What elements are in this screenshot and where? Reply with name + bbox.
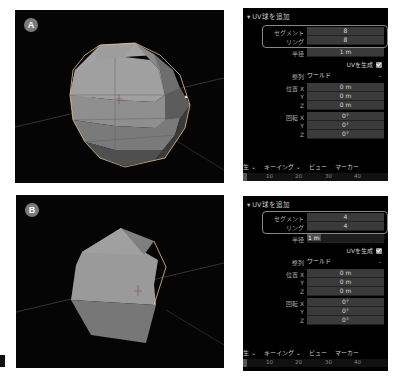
align-select[interactable]: ワールド⌄ bbox=[307, 71, 384, 79]
align-row: 整列 ワールド⌄ bbox=[243, 257, 388, 266]
rotation-x-row: 回転 X 0° bbox=[243, 112, 388, 121]
menu-marker[interactable]: マーカー bbox=[335, 349, 359, 356]
rotation-z-field[interactable]: 0° bbox=[307, 130, 384, 139]
operator-title[interactable]: ▾ UV球を追加 bbox=[247, 11, 290, 21]
location-z-row: Z 0 m bbox=[243, 101, 388, 110]
menu-keying[interactable]: キーイング ⌄ bbox=[264, 163, 301, 170]
rings-label: リング bbox=[286, 37, 304, 46]
location-y-label: Y bbox=[300, 279, 304, 286]
location-z-label: Z bbox=[300, 102, 304, 109]
operator-panel-b: ▾ UV球を追加 セグメント 4 リング 4 半径 1 m UVを生成 整列 ワ… bbox=[243, 196, 388, 371]
align-label: 整列 bbox=[292, 258, 304, 267]
rotation-z-row: Z 0° bbox=[243, 130, 388, 139]
rings-field[interactable]: 8 bbox=[307, 36, 384, 45]
rotation-x-row: 回転 X 0° bbox=[243, 298, 388, 307]
radius-label: 半径 bbox=[292, 235, 304, 244]
viewport-a[interactable]: A bbox=[15, 10, 224, 183]
checkbox-checked-icon bbox=[376, 248, 382, 254]
viewport-b[interactable]: B bbox=[16, 195, 224, 368]
badge-a: A bbox=[24, 18, 38, 32]
rotation-y-field[interactable]: 0° bbox=[307, 121, 384, 130]
operator-panel-a: ▾ UV球を追加 セグメント 8 リング 8 半径 1 m UVを生成 整列 ワ… bbox=[243, 8, 388, 181]
timeline-ruler[interactable]: 10 20 30 40 bbox=[243, 173, 388, 181]
menu-playback[interactable]: 生 ⌄ bbox=[243, 349, 256, 356]
playhead[interactable] bbox=[243, 173, 247, 181]
rotation-x-field[interactable]: 0° bbox=[307, 298, 384, 307]
timeline-ruler[interactable]: 10 20 30 40 bbox=[243, 359, 388, 367]
playhead[interactable] bbox=[243, 359, 247, 367]
rotation-y-row: Y 0° bbox=[243, 121, 388, 130]
chevron-down-icon: ⌄ bbox=[378, 71, 382, 79]
location-z-row: Z 0 m bbox=[243, 287, 388, 296]
location-z-field[interactable]: 0 m bbox=[307, 287, 384, 296]
segments-field[interactable]: 8 bbox=[307, 27, 384, 36]
operator-title[interactable]: ▾ UV球を追加 bbox=[247, 199, 290, 209]
align-label: 整列 bbox=[292, 72, 304, 81]
radius-row: 半径 1 m bbox=[243, 48, 388, 57]
menu-view[interactable]: ビュー bbox=[309, 163, 327, 170]
location-x-row: 位置 X 0 m bbox=[243, 83, 388, 92]
location-x-field[interactable]: 0 m bbox=[307, 269, 384, 278]
checkbox-checked-icon bbox=[376, 62, 382, 68]
menu-keying[interactable]: キーイング ⌄ bbox=[264, 349, 301, 356]
rotation-y-label: Y bbox=[300, 308, 304, 315]
rotation-y-label: Y bbox=[300, 122, 304, 129]
rotation-z-field[interactable]: 0° bbox=[307, 316, 384, 325]
location-y-label: Y bbox=[300, 93, 304, 100]
rotation-z-label: Z bbox=[300, 317, 304, 324]
radius-label: 半径 bbox=[292, 49, 304, 58]
timeline-menu: 生 ⌄ キーイング ⌄ ビュー マーカー bbox=[243, 162, 365, 171]
location-x-field[interactable]: 0 m bbox=[307, 83, 384, 92]
location-x-row: 位置 X 0 m bbox=[243, 269, 388, 278]
location-y-row: Y 0 m bbox=[243, 278, 388, 287]
location-y-field[interactable]: 0 m bbox=[307, 92, 384, 101]
rotation-z-label: Z bbox=[300, 131, 304, 138]
generate-uv-checkbox[interactable]: UVを生成 bbox=[347, 246, 383, 255]
radius-field-editing[interactable]: 1 m bbox=[307, 234, 384, 243]
location-z-label: Z bbox=[300, 288, 304, 295]
sphere-8-segments bbox=[15, 10, 224, 183]
menu-playback[interactable]: 生 ⌄ bbox=[243, 163, 256, 170]
location-z-field[interactable]: 0 m bbox=[307, 101, 384, 110]
align-row: 整列 ワールド⌄ bbox=[243, 71, 388, 80]
generate-uv-checkbox[interactable]: UVを生成 bbox=[347, 60, 383, 69]
page-marker bbox=[0, 355, 5, 367]
badge-b: B bbox=[25, 203, 39, 217]
rings-label: リング bbox=[286, 223, 304, 232]
rotation-x-field[interactable]: 0° bbox=[307, 112, 384, 121]
timeline-menu: 生 ⌄ キーイング ⌄ ビュー マーカー bbox=[243, 348, 365, 357]
rotation-y-row: Y 0° bbox=[243, 307, 388, 316]
location-y-row: Y 0 m bbox=[243, 92, 388, 101]
menu-marker[interactable]: マーカー bbox=[335, 163, 359, 170]
segments-row: セグメント 8 bbox=[243, 27, 388, 36]
location-y-field[interactable]: 0 m bbox=[307, 278, 384, 287]
rings-row: リング 4 bbox=[243, 222, 388, 231]
segments-row: セグメント 4 bbox=[243, 213, 388, 222]
radius-row: 半径 1 m bbox=[243, 234, 388, 243]
segments-field[interactable]: 4 bbox=[307, 213, 384, 222]
menu-view[interactable]: ビュー bbox=[309, 349, 327, 356]
radius-field[interactable]: 1 m bbox=[307, 48, 384, 57]
sphere-4-segments bbox=[16, 195, 224, 368]
rings-row: リング 8 bbox=[243, 36, 388, 45]
rotation-y-field[interactable]: 0° bbox=[307, 307, 384, 316]
rotation-z-row: Z 0° bbox=[243, 316, 388, 325]
chevron-down-icon: ⌄ bbox=[378, 257, 382, 265]
rings-field[interactable]: 4 bbox=[307, 222, 384, 231]
align-select[interactable]: ワールド⌄ bbox=[307, 257, 384, 265]
